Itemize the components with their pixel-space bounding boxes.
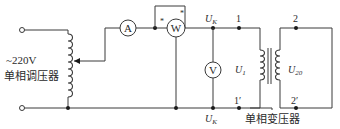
primary-wire-top [185,28,260,50]
regulator-label: 单相调压器 [4,70,59,83]
u1-label: U1 [235,64,246,77]
node-uk-bottom [211,106,215,110]
transformer-primary-coil [260,50,265,80]
transformer-secondary-coil [276,50,281,80]
transformer-core [268,48,271,84]
input-wire-top [25,30,69,34]
regulator-wiper-arrow [74,28,120,64]
bottom-wire [25,108,273,110]
circuit-diagram: A W * * V ~220V 单相调压器 UK 1 2 1′ 2′ UK U1… [0,0,340,129]
ammeter-label: A [124,22,132,34]
terminal-2-prime [294,106,298,110]
uk-bottom-label: UK [205,113,217,126]
terminal-2 [294,26,298,30]
terminal-2-prime-label: 2′ [291,95,298,106]
source-voltage-label: ~220V [6,54,36,66]
transformer-label: 单相变压器 [245,112,300,126]
regulator-coil [68,34,73,97]
terminal-2-label: 2 [293,13,298,24]
primary-wire-bottom [250,80,260,108]
voltmeter: V [205,62,221,78]
terminal-1-label: 1 [236,13,241,24]
input-terminal-bottom [20,106,25,111]
wattmeter-label: W [171,22,182,34]
terminal-1-prime-label: 1′ [234,95,241,106]
polarity-mark-current: * [160,17,164,26]
wattmeter: W [167,19,185,37]
ammeter: A [120,20,136,36]
terminal-1-prime [237,106,241,110]
input-terminal-top [20,28,25,33]
junction-dot [66,106,70,110]
junction-dot [174,106,178,110]
u20-label: U20 [288,64,303,77]
voltmeter-label: V [209,64,217,76]
polarity-mark-voltage: * [180,9,184,18]
uk-top-label: UK [205,13,217,26]
terminal-1 [237,26,241,30]
